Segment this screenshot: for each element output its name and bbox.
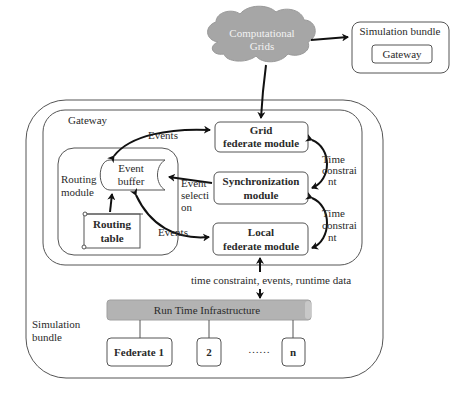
- routing-table-line1: Routing: [93, 218, 131, 230]
- routing-table-line2: table: [100, 232, 123, 244]
- time-constraint-2-line1: Time: [322, 207, 345, 219]
- event-selection-label-3: on: [181, 201, 193, 213]
- run-time-infrastructure-bar: Run Time Infrastructure: [107, 300, 311, 320]
- architecture-diagram: Computational Grids Simulation bundle Ga…: [0, 0, 475, 400]
- gateway-label: Gateway: [68, 114, 108, 126]
- grid-module-line2: federate module: [223, 137, 299, 149]
- federate-2-label: 2: [206, 346, 212, 358]
- event-buffer-line2: buffer: [118, 175, 145, 187]
- local-federate-module: Local federate module: [213, 223, 308, 255]
- routing-module-label-line2: module: [61, 186, 94, 198]
- federate-n-label: n: [290, 346, 296, 358]
- federates-ellipsis: ……: [248, 343, 270, 355]
- event-selection-label-2: selecti: [181, 189, 209, 201]
- local-module-line2: federate module: [223, 240, 299, 252]
- federate-2: 2: [197, 338, 221, 366]
- top-bundle-title: Simulation bundle: [360, 25, 441, 37]
- top-simulation-bundle: Simulation bundle Gateway: [352, 22, 449, 73]
- event-selection-label-1: Event: [181, 177, 207, 189]
- event-buffer: Event buffer: [100, 160, 165, 190]
- local-module-line1: Local: [248, 226, 274, 238]
- routing-module-label-line1: Routing: [61, 173, 97, 185]
- events-bottom-label: Events: [158, 226, 188, 238]
- event-buffer-line1: Event: [118, 162, 144, 174]
- cloud-label-line1: Computational: [229, 27, 294, 39]
- federate-1-label: Federate 1: [114, 346, 164, 358]
- time-constraint-2-line3: nt: [328, 231, 337, 243]
- time-constraint-2-line2: constrai: [322, 219, 357, 231]
- outer-bundle-label-line2: bundle: [32, 331, 62, 343]
- rti-link-label: time constraint, events, runtime data: [191, 274, 351, 286]
- routing-table: Routing table: [82, 212, 143, 249]
- rti-label: Run Time Infrastructure: [154, 304, 260, 316]
- cloud-label-line2: Grids: [250, 40, 274, 52]
- events-top-label: Events: [148, 129, 178, 141]
- grid-federate-module: Grid federate module: [215, 122, 308, 152]
- sync-module-line2: module: [244, 189, 279, 201]
- outer-bundle-label-line1: Simulation: [32, 318, 81, 330]
- sync-module-line1: Synchronization: [223, 175, 300, 187]
- grid-module-line1: Grid: [250, 124, 273, 136]
- computational-grids-cloud: Computational Grids: [208, 6, 316, 62]
- cloud-to-bundle-arrow: [311, 37, 348, 40]
- top-bundle-gateway: Gateway: [382, 48, 422, 60]
- federate-n: n: [282, 338, 305, 366]
- synchronization-module: Synchronization module: [214, 172, 308, 204]
- routing-table-to-buffer-arrow: [110, 194, 112, 212]
- time-constraint-1-line3: nt: [328, 175, 337, 187]
- federate-1: Federate 1: [107, 338, 172, 366]
